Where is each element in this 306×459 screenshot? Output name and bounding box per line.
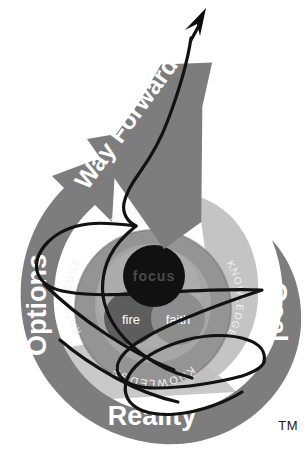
label-goal: Goal bbox=[262, 282, 292, 342]
label-fire: fire bbox=[122, 312, 140, 327]
journey-arrow-head-group bbox=[185, 8, 206, 40]
label-focus: focus bbox=[133, 268, 175, 284]
way-forward-diagram: Options Goal Reality KNOWLEDGE KNOWLEDGE… bbox=[0, 0, 306, 459]
diagram-canvas: Options Goal Reality KNOWLEDGE KNOWLEDGE… bbox=[0, 0, 306, 459]
trademark-mark: TM bbox=[278, 418, 298, 433]
label-reality: Reality bbox=[108, 401, 197, 431]
focus-core-group: focus bbox=[123, 245, 185, 307]
